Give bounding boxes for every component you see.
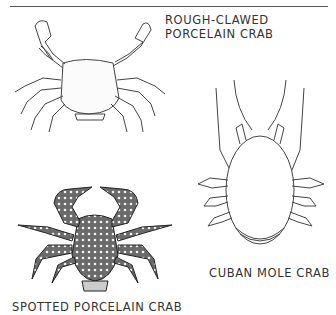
label-line-2: PORCELAIN CRAB bbox=[165, 27, 274, 41]
label-line-1: ROUGH-CLAWED bbox=[165, 13, 274, 27]
rough-clawed-porcelain-crab-illustration bbox=[5, 18, 170, 138]
top-rule bbox=[10, 6, 328, 7]
spotted-porcelain-crab-label: SPOTTED PORCELAIN CRAB bbox=[12, 300, 182, 314]
rough-clawed-porcelain-crab-label: ROUGH-CLAWED PORCELAIN CRAB bbox=[165, 13, 274, 41]
cuban-mole-crab-illustration bbox=[196, 80, 336, 250]
spotted-porcelain-crab-illustration bbox=[8, 183, 183, 298]
cuban-mole-crab-label: CUBAN MOLE CRAB bbox=[209, 266, 330, 280]
